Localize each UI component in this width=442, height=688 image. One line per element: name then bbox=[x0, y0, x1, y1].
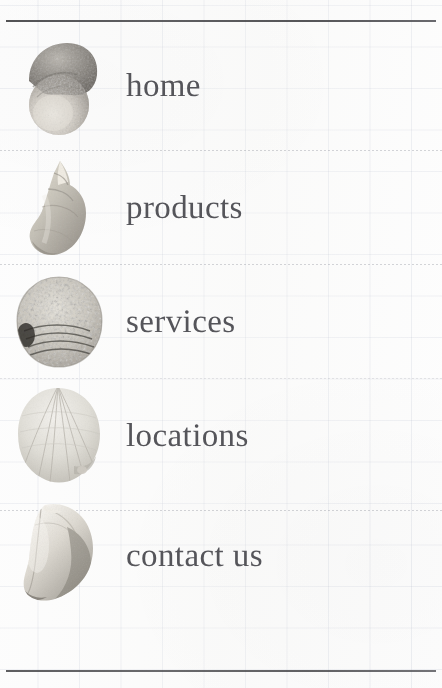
spotted-snail-shell-icon bbox=[0, 33, 118, 141]
nav-label: services bbox=[118, 306, 235, 339]
nav-label: products bbox=[118, 192, 243, 225]
nav-label: home bbox=[118, 70, 201, 103]
nav-label: contact us bbox=[118, 540, 263, 573]
nav-item-home[interactable]: home bbox=[0, 30, 442, 143]
main-navigation: home bbox=[0, 0, 442, 688]
speckled-clam-shell-icon bbox=[0, 269, 118, 377]
scallop-shell-icon bbox=[0, 383, 118, 491]
nav-item-locations[interactable]: locations bbox=[0, 380, 442, 493]
nav-item-services[interactable]: services bbox=[0, 266, 442, 379]
whelk-shell-icon bbox=[0, 155, 118, 263]
conch-shell-icon bbox=[0, 503, 118, 611]
nav-item-contact-us[interactable]: contact us bbox=[0, 500, 442, 613]
nav-label: locations bbox=[118, 420, 249, 453]
nav-item-products[interactable]: products bbox=[0, 152, 442, 265]
